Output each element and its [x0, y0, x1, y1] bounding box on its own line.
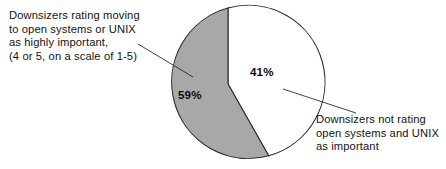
callout-left-line-2: to open systems or UNIX [9, 23, 140, 37]
callout-right-line-3: as important [316, 140, 439, 154]
pie-slice-label-white: 41% [250, 65, 274, 78]
callout-right-line-2: open systems and UNIX [316, 127, 439, 141]
callout-right-line-1: Downsizers not rating [316, 113, 439, 127]
pie-slice-label-gray: 59% [178, 88, 202, 101]
callout-left-line-4: (4 or 5, on a scale of 1-5) [9, 50, 140, 64]
pie-chart-figure: Downsizers rating moving to open systems… [0, 0, 446, 169]
callout-left-line-3: as highly important, [9, 36, 140, 50]
callout-left-line-1: Downsizers rating moving [9, 9, 140, 23]
white-slice-callout: Downsizers not rating open systems and U… [316, 113, 439, 154]
gray-slice-callout: Downsizers rating moving to open systems… [9, 9, 140, 63]
